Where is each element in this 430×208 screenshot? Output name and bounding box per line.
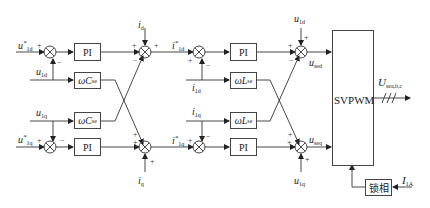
pll-block: 锁相	[365, 179, 392, 196]
decouple-l-block-d: ωLse	[230, 72, 257, 89]
sign-minus: −	[206, 62, 211, 70]
label-u1d-ref: u*1d	[18, 38, 33, 54]
label-i1q: i1q	[192, 107, 201, 120]
sign-minus: −	[133, 57, 138, 65]
sign-plus: +	[133, 139, 138, 147]
label-output-voltage: Usea,b,c	[378, 77, 402, 91]
label-i1q-ref: i*1q	[172, 133, 184, 149]
sign-plus: +	[132, 42, 137, 50]
label-id: id	[138, 20, 144, 33]
pi-block-q-voltage: PI	[74, 138, 101, 156]
decouple-c-block-q: ωCse	[74, 112, 101, 129]
label-useq: useq	[309, 135, 322, 148]
sign-plus: +	[304, 34, 309, 42]
sign-plus: +	[287, 139, 292, 147]
label-used: used	[309, 58, 322, 71]
sign-plus: +	[37, 137, 42, 145]
pi-block-d-voltage: PI	[74, 43, 101, 61]
decouple-l-block-q: ωLse	[230, 112, 257, 129]
label-u1q-ref: u*1q	[18, 132, 33, 148]
sign-minus: −	[289, 57, 294, 65]
sign-plus: +	[150, 158, 155, 166]
label-pll-input: I1A	[402, 175, 413, 189]
sign-minus: −	[206, 133, 211, 141]
control-block-diagram: PI PI ωCse ωCse PI PI ωLse ωLse SVPWM 锁相…	[0, 0, 430, 208]
sign-plus: +	[305, 156, 310, 164]
label-u1d: u1d	[36, 67, 47, 80]
sign-plus: +	[288, 42, 293, 50]
sign-minus: −	[57, 59, 62, 67]
label-i1d: i1d	[192, 83, 201, 96]
label-u1q-ff: u1q	[294, 176, 305, 189]
sign-plus: +	[188, 137, 193, 145]
sign-plus: +	[37, 42, 42, 50]
label-i1d-ref: i*1d	[172, 38, 184, 54]
label-iq: iq	[138, 176, 144, 189]
label-u1q: u1q	[36, 108, 47, 121]
label-u1d-ff: u1d	[294, 14, 305, 27]
svpwm-label: SVPWM	[334, 94, 374, 106]
pi-block-q-current: PI	[230, 138, 257, 156]
sign-minus: −	[60, 137, 65, 145]
pi-block-d-current: PI	[230, 43, 257, 61]
decouple-c-block-d: ωCse	[74, 72, 101, 89]
sign-plus: +	[188, 57, 193, 65]
sign-plus: +	[154, 42, 159, 50]
